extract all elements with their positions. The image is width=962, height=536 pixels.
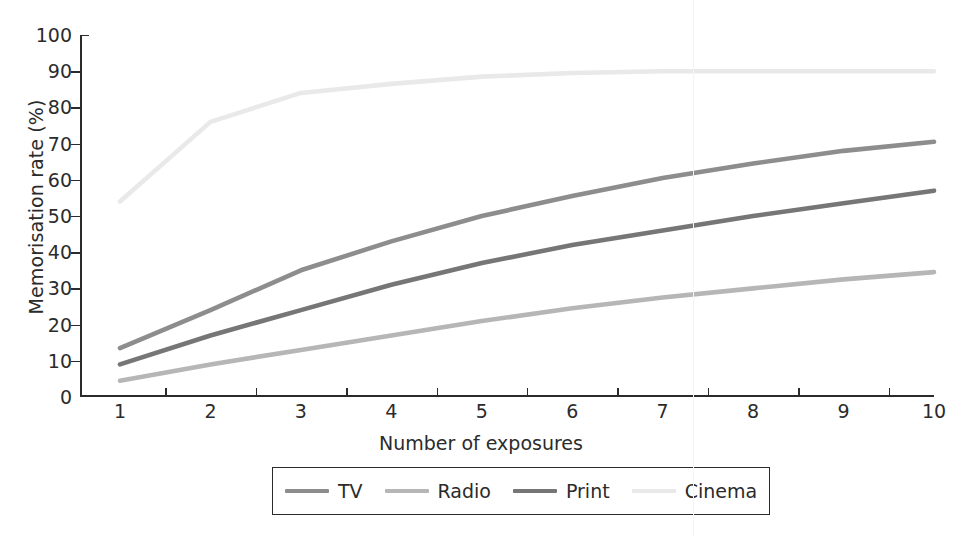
y-tick-label: 90: [26, 62, 72, 81]
y-tick-label: 80: [26, 98, 72, 117]
y-tick-label: 20: [26, 315, 72, 334]
series-line-print: [120, 191, 934, 365]
legend-swatch-icon: [285, 489, 329, 494]
x-tick-mark: [708, 388, 709, 397]
y-tick-mark: [71, 180, 80, 181]
chart-legend: TVRadioPrintCinema: [272, 467, 770, 515]
x-tick-mark: [165, 388, 166, 397]
x-axis-title: Number of exposures: [0, 432, 962, 454]
y-tick-label: 100: [26, 26, 72, 45]
x-tick-mark: [798, 388, 799, 397]
y-tick-mark: [71, 107, 80, 108]
x-tick-label: 2: [185, 400, 235, 423]
y-tick-label: 50: [26, 207, 72, 226]
y-tick-label: 40: [26, 243, 72, 262]
x-tick-mark: [346, 388, 347, 397]
x-tick-mark: [437, 388, 438, 397]
x-tick-mark: [256, 388, 257, 397]
y-tick-label: 30: [26, 279, 72, 298]
legend-label: Cinema: [685, 480, 757, 502]
y-tick-label: 10: [26, 351, 72, 370]
x-tick-mark: [617, 388, 618, 397]
y-tick-mark: [71, 252, 80, 253]
legend-swatch-icon: [385, 489, 429, 494]
x-tick-label: 10: [909, 400, 959, 423]
line-chart: Memorisation rate (%) 010203040506070809…: [0, 0, 962, 536]
y-tick-label: 60: [26, 170, 72, 189]
x-tick-label: 8: [728, 400, 778, 423]
legend-swatch-icon: [513, 489, 557, 494]
x-tick-label: 4: [366, 400, 416, 423]
legend-label: Radio: [438, 480, 491, 502]
series-line-cinema: [120, 71, 934, 201]
x-tick-label: 5: [457, 400, 507, 423]
legend-swatch-icon: [632, 489, 676, 494]
x-tick-label: 9: [819, 400, 869, 423]
y-tick-mark: [71, 71, 80, 72]
x-tick-mark: [889, 388, 890, 397]
y-tick-label: 70: [26, 134, 72, 153]
plot-area: [80, 35, 934, 397]
y-tick-mark: [71, 288, 80, 289]
legend-item-radio[interactable]: Radio: [385, 480, 491, 502]
y-tick-mark: [71, 216, 80, 217]
x-tick-label: 1: [95, 400, 145, 423]
legend-label: TV: [338, 480, 363, 502]
y-tick-mark: [71, 325, 80, 326]
x-axis-tick-labels: 12345678910: [80, 400, 934, 428]
series-line-tv: [120, 142, 934, 348]
y-axis-tick-labels: 0102030405060708090100: [26, 35, 72, 397]
x-tick-label: 7: [638, 400, 688, 423]
series-lines: [80, 35, 934, 397]
legend-item-tv[interactable]: TV: [285, 480, 363, 502]
legend-item-print[interactable]: Print: [513, 480, 610, 502]
x-tick-label: 3: [276, 400, 326, 423]
y-tick-mark: [71, 361, 80, 362]
x-tick-mark: [527, 388, 528, 397]
y-tick-label: 0: [26, 388, 72, 407]
y-tick-mark: [71, 144, 80, 145]
legend-label: Print: [566, 480, 610, 502]
x-tick-label: 6: [547, 400, 597, 423]
legend-item-cinema[interactable]: Cinema: [632, 480, 757, 502]
